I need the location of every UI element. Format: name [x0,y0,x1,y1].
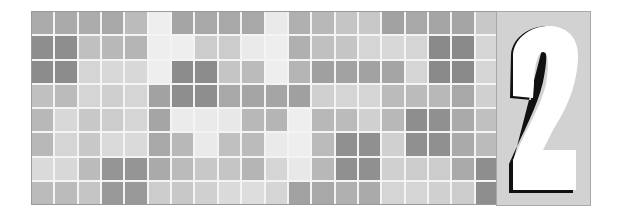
mosaic-cell [289,158,310,180]
mosaic-cell [219,36,240,58]
mosaic-cell [266,133,287,155]
mosaic-cell [102,85,123,107]
mosaic-cell [336,85,357,107]
mosaic-cell [172,182,193,204]
mosaic-cell [312,109,333,131]
mosaic-cell [289,109,310,131]
mosaic-cell [429,85,450,107]
mosaic-cell [382,158,403,180]
mosaic-cell [242,61,263,83]
mosaic-cell [172,85,193,107]
mosaic-cell [382,61,403,83]
mosaic-cell [195,85,216,107]
mosaic-cell [242,85,263,107]
mosaic-cell [336,12,357,34]
mosaic-cell [242,133,263,155]
mosaic-cell [336,61,357,83]
mosaic-cell [312,61,333,83]
mosaic-cell [266,109,287,131]
mosaic-cell [125,158,146,180]
mosaic-cell [219,133,240,155]
mosaic-cell [242,36,263,58]
mosaic-cell [452,85,473,107]
mosaic-cell [312,182,333,204]
mosaic-cell [79,61,100,83]
mosaic-cell [125,36,146,58]
mosaic-cell [125,133,146,155]
mosaic-cell [359,158,380,180]
mosaic-grid [32,12,497,204]
mosaic-cell [452,158,473,180]
mosaic-cell [195,61,216,83]
mosaic-cell [359,182,380,204]
mosaic-cell [429,109,450,131]
mosaic-cell [55,182,76,204]
mosaic-cell [149,182,170,204]
mosaic-cell [79,158,100,180]
mosaic-cell [336,36,357,58]
mosaic-cell [149,85,170,107]
mosaic-cell [382,109,403,131]
mosaic-cell [382,85,403,107]
mosaic-cell [406,85,427,107]
mosaic-cell [242,12,263,34]
mosaic-cell [79,12,100,34]
mosaic-cell [476,133,497,155]
mosaic-cell [289,12,310,34]
mosaic-cell [195,158,216,180]
mosaic-cell [102,36,123,58]
mosaic-cell [312,12,333,34]
mosaic-cell [289,36,310,58]
chapter-number-panel [497,12,590,205]
mosaic-cell [266,36,287,58]
mosaic-cell [429,133,450,155]
mosaic-cell [125,85,146,107]
mosaic-cell [55,12,76,34]
mosaic-cell [55,109,76,131]
mosaic-cell [266,158,287,180]
mosaic-cell [32,12,53,34]
mosaic-cell [55,85,76,107]
mosaic-cell [149,61,170,83]
mosaic-cell [406,158,427,180]
mosaic-cell [336,133,357,155]
mosaic-cell [195,36,216,58]
mosaic-cell [125,109,146,131]
mosaic-cell [149,12,170,34]
mosaic-cell [476,61,497,83]
mosaic-cell [32,36,53,58]
mosaic-cell [476,12,497,34]
mosaic-cell [172,158,193,180]
mosaic-cell [382,12,403,34]
mosaic-cell [32,158,53,180]
mosaic-cell [32,85,53,107]
mosaic-cell [476,158,497,180]
mosaic-cell [125,61,146,83]
mosaic-cell [102,109,123,131]
mosaic-cell [312,158,333,180]
mosaic-cell [219,61,240,83]
mosaic-cell [172,12,193,34]
mosaic-cell [406,109,427,131]
mosaic-cell [452,133,473,155]
mosaic-cell [102,182,123,204]
mosaic-cell [452,109,473,131]
mosaic-cell [359,61,380,83]
mosaic-cell [452,182,473,204]
mosaic-cell [242,182,263,204]
mosaic-cell [476,36,497,58]
mosaic-cell [55,61,76,83]
mosaic-cell [125,182,146,204]
mosaic-cell [289,61,310,83]
mosaic-cell [79,85,100,107]
mosaic-cell [266,61,287,83]
mosaic-cell [242,158,263,180]
mosaic-cell [312,36,333,58]
mosaic-cell [382,182,403,204]
numeral-fill [513,26,578,190]
mosaic-cell [429,12,450,34]
mosaic-cell [172,36,193,58]
mosaic-cell [219,182,240,204]
mosaic-cell [266,182,287,204]
mosaic-cell [289,182,310,204]
